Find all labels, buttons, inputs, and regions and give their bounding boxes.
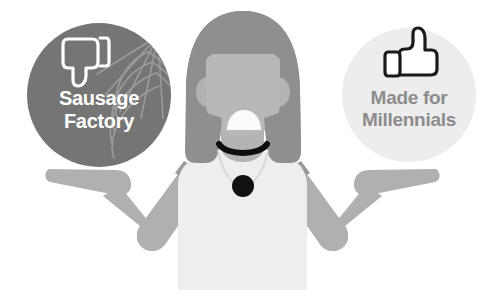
badge-positive-line1: Made for xyxy=(371,87,449,108)
illustration-svg: Sausage Factory Made for Millennials xyxy=(0,0,485,308)
hand-right-open-palm xyxy=(354,169,440,195)
torso-shirt xyxy=(178,151,307,290)
badge-made-for-millennials[interactable]: Made for Millennials xyxy=(342,28,476,162)
hand-left-open-palm xyxy=(45,169,131,195)
badge-negative-line2: Factory xyxy=(64,110,135,132)
badge-negative-line1: Sausage xyxy=(59,87,139,109)
badge-sausage-factory[interactable]: Sausage Factory xyxy=(27,23,188,167)
necklace-pendant xyxy=(232,175,254,197)
illustration-canvas: Sausage Factory Made for Millennials xyxy=(0,0,485,308)
badge-positive-line2: Millennials xyxy=(362,109,456,130)
